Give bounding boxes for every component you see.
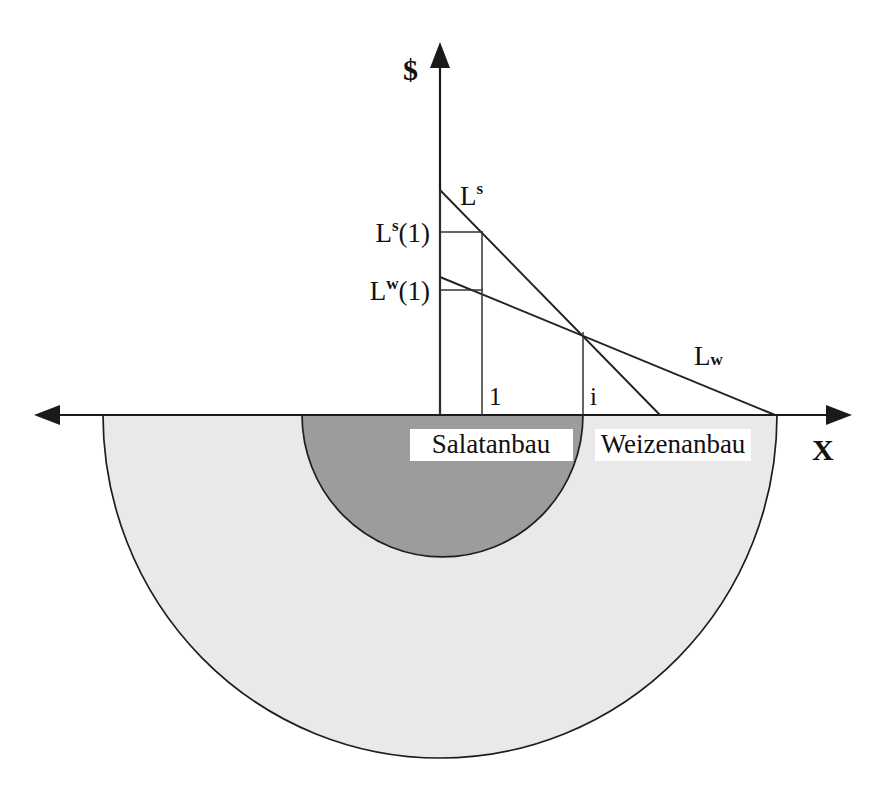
curve-label-lw-sup-real: w: [711, 350, 724, 369]
x-axis-label: X: [812, 433, 834, 466]
svg-text:Lw: Lw: [694, 341, 724, 371]
region-group: [103, 415, 777, 758]
region-label-weizenanbau-text: Weizenanbau: [601, 429, 746, 459]
value-label-lw1-base: L: [370, 276, 387, 306]
x-axis-right-arrow-icon: [826, 405, 852, 425]
axes-group: [34, 42, 852, 425]
bid-rent-diagram: $ X Ls Lw Ls(1) Lw(1) 1 i: [0, 0, 883, 796]
svg-text:Lw(1): Lw(1): [370, 274, 430, 306]
curve-label-ls-base: L: [460, 181, 477, 211]
y-axis-up-arrow-icon: [430, 42, 450, 68]
value-label-lw1-suffix: (1): [399, 276, 430, 306]
y-axis-label: $: [403, 53, 418, 86]
svg-text:Ls(1): Ls(1): [375, 216, 430, 248]
tick-label-i: i: [590, 383, 597, 410]
value-label-ls1-base: L: [375, 218, 392, 248]
tick-label-1: 1: [489, 383, 502, 410]
curve-label-lw-base: L: [694, 341, 711, 371]
region-label-salatanbau: Salatanbau: [410, 429, 573, 461]
helper-line-group: [440, 190, 583, 415]
curve-label-lw: Lw: [694, 341, 724, 371]
value-label-lw1: Lw(1): [370, 274, 430, 306]
value-label-lw1-sup: w: [386, 274, 399, 293]
x-axis-left-arrow-icon: [34, 405, 60, 425]
region-label-salatanbau-text: Salatanbau: [432, 429, 551, 459]
value-label-ls1: Ls(1): [375, 216, 430, 248]
curve-label-ls-sup: s: [477, 179, 484, 198]
svg-text:Ls: Ls: [460, 179, 484, 211]
curve-group: [440, 190, 775, 415]
curve-ls-line: [440, 190, 660, 415]
curve-label-ls: Ls: [460, 179, 484, 211]
region-label-weizenanbau: Weizenanbau: [595, 429, 751, 461]
value-label-ls1-suffix: (1): [399, 218, 430, 248]
diagram-canvas: $ X Ls Lw Ls(1) Lw(1) 1 i: [0, 0, 883, 796]
